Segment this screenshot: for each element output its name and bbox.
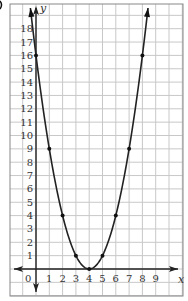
y-tick-label: 16	[20, 50, 33, 61]
x-tick-label: 2	[59, 273, 65, 284]
x-tick-label: 3	[73, 273, 79, 284]
y-tick-label: 18	[20, 23, 33, 34]
y-tick-label: 15	[20, 63, 33, 74]
y-tick-label: 6	[27, 183, 33, 194]
x-tick-label: 7	[126, 273, 132, 284]
x-tick-label: 6	[113, 273, 119, 284]
y-tick-label: 8	[27, 157, 33, 168]
x-tick-label: 4	[86, 273, 92, 284]
x-tick-label: 8	[139, 273, 145, 284]
y-axis-label: y	[39, 2, 47, 15]
y-tick-label: 2	[27, 237, 33, 248]
parabola-graph: 123456789123456789101112131415161718 x y…	[0, 0, 188, 301]
y-tick-label: 3	[27, 223, 33, 234]
y-tick-label: 17	[20, 37, 33, 48]
data-point	[47, 147, 51, 151]
data-point	[87, 267, 91, 271]
y-tick-label: 11	[20, 117, 33, 128]
y-tick-label: 13	[20, 90, 33, 101]
y-tick-label: 10	[20, 130, 33, 141]
x-tick-label: 1	[46, 273, 52, 284]
data-point	[114, 214, 118, 218]
y-tick-label: 5	[27, 197, 33, 208]
data-point	[74, 254, 78, 258]
y-tick-label: 14	[20, 77, 33, 88]
y-tick-label: 7	[27, 170, 33, 181]
data-point	[127, 147, 131, 151]
x-tick-label: 9	[153, 273, 159, 284]
y-tick-label: 9	[27, 143, 33, 154]
data-point	[34, 53, 38, 57]
data-point	[61, 214, 65, 218]
data-point	[140, 53, 144, 57]
x-axis-label: x	[178, 273, 185, 286]
y-tick-label: 12	[20, 103, 33, 114]
panel-label-fragment	[0, 1, 2, 9]
x-tick-label: 5	[99, 273, 105, 284]
y-tick-label: 4	[27, 210, 33, 221]
data-point	[101, 254, 105, 258]
origin-label: 0	[25, 273, 31, 284]
y-tick-label: 1	[27, 250, 33, 261]
